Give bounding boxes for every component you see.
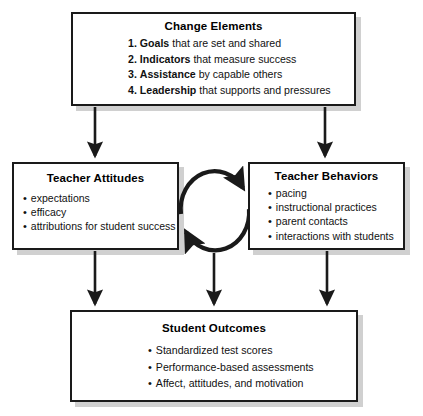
student-outcomes-item: Performance-based assessments bbox=[148, 359, 356, 376]
flow-diagram: Change Elements 1. Goals that are set an… bbox=[0, 0, 423, 416]
change-element-detail: that are set and shared bbox=[169, 37, 281, 49]
change-elements-box[interactable]: Change Elements 1. Goals that are set an… bbox=[71, 12, 356, 106]
change-element-number: 1. bbox=[128, 37, 137, 49]
student-outcomes-box[interactable]: Student Outcomes Standardized test score… bbox=[70, 310, 358, 402]
change-element-number: 2. bbox=[128, 53, 137, 65]
change-element-item: 2. Indicators that measure success bbox=[128, 52, 354, 68]
change-element-number: 3. bbox=[128, 68, 137, 80]
teacher-attitudes-box[interactable]: Teacher Attitudes expectationsefficacyat… bbox=[12, 162, 179, 250]
change-elements-list: 1. Goals that are set and shared2. Indic… bbox=[128, 36, 354, 98]
student-outcomes-item: Affect, attitudes, and motivation bbox=[148, 375, 356, 392]
change-element-detail: that measure success bbox=[190, 53, 296, 65]
teacher-attitudes-item: attributions for student success bbox=[23, 219, 177, 233]
student-outcomes-title: Student Outcomes bbox=[72, 322, 356, 334]
change-element-keyword: Assistance bbox=[140, 68, 196, 80]
change-elements-title: Change Elements bbox=[73, 20, 354, 32]
teacher-attitudes-item: expectations bbox=[23, 191, 177, 205]
teacher-behaviors-list: pacinginstructional practicesparent cont… bbox=[268, 186, 403, 243]
change-element-item: 3. Assistance by capable others bbox=[128, 67, 354, 83]
behaviors-to-attitudes-arrow bbox=[186, 209, 249, 250]
teacher-attitudes-list: expectationsefficacyattributions for stu… bbox=[23, 191, 177, 234]
change-element-detail: that supports and pressures bbox=[196, 84, 330, 96]
teacher-behaviors-item: interactions with students bbox=[268, 229, 403, 243]
change-element-number: 4. bbox=[128, 84, 137, 96]
teacher-attitudes-item: efficacy bbox=[23, 205, 177, 219]
student-outcomes-item: Standardized test scores bbox=[148, 342, 356, 359]
student-outcomes-list: Standardized test scoresPerformance-base… bbox=[148, 342, 356, 392]
change-element-keyword: Leadership bbox=[140, 84, 197, 96]
teacher-behaviors-item: pacing bbox=[268, 186, 403, 200]
teacher-attitudes-title: Teacher Attitudes bbox=[14, 172, 177, 184]
teacher-behaviors-item: instructional practices bbox=[268, 200, 403, 214]
teacher-behaviors-box[interactable]: Teacher Behaviors pacinginstructional pr… bbox=[248, 162, 405, 250]
change-element-item: 4. Leadership that supports and pressure… bbox=[128, 83, 354, 99]
teacher-behaviors-item: parent contacts bbox=[268, 214, 403, 228]
change-element-keyword: Goals bbox=[140, 37, 169, 49]
change-element-detail: by capable others bbox=[196, 68, 283, 80]
change-element-keyword: Indicators bbox=[140, 53, 191, 65]
attitudes-to-behaviors-arrow bbox=[181, 171, 243, 214]
change-element-item: 1. Goals that are set and shared bbox=[128, 36, 354, 52]
teacher-behaviors-title: Teacher Behaviors bbox=[250, 170, 403, 182]
